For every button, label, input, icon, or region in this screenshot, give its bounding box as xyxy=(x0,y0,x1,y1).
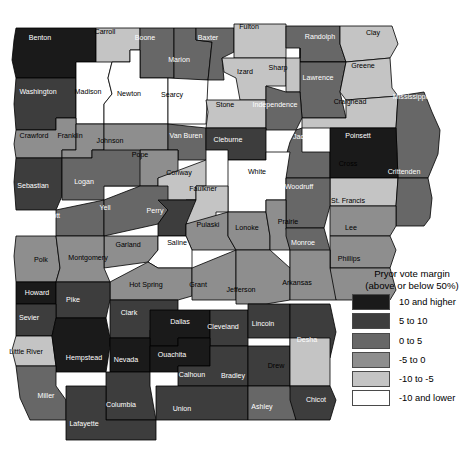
county-region xyxy=(236,250,290,304)
legend-item: -10 and lower xyxy=(352,390,472,406)
county-region xyxy=(266,200,290,250)
legend: Pryor vote margin (above or below 50%) 1… xyxy=(352,268,472,406)
county-region xyxy=(56,200,104,236)
legend-swatch xyxy=(352,294,390,310)
county-region xyxy=(266,86,302,130)
county-region xyxy=(16,304,56,336)
legend-rows: 10 and higher5 to 100 to 5-5 to 0-10 to … xyxy=(352,294,472,406)
legend-label: -5 to 0 xyxy=(399,355,425,365)
county-region xyxy=(300,62,346,118)
legend-label: -10 to -5 xyxy=(399,374,434,384)
legend-swatch xyxy=(352,313,390,329)
county-region xyxy=(228,212,270,250)
legend-label: 0 to 5 xyxy=(399,336,422,346)
legend-item: 0 to 5 xyxy=(352,333,472,349)
county-region xyxy=(248,386,296,420)
legend-item: -5 to 0 xyxy=(352,352,472,368)
county-region xyxy=(290,386,336,420)
county-region xyxy=(12,336,56,366)
legend-title-line1: Pryor vote margin xyxy=(352,268,472,280)
county-region xyxy=(396,92,440,178)
county-region xyxy=(14,236,60,282)
county-region xyxy=(156,386,248,420)
county-region xyxy=(56,236,110,282)
county-region xyxy=(16,366,66,420)
county-region xyxy=(340,58,398,100)
county-region xyxy=(330,128,398,178)
county-region xyxy=(206,100,266,128)
map-figure: BentonCarrollBooneMarionBaxterFultonRand… xyxy=(0,0,475,462)
county-region xyxy=(106,372,156,420)
legend-label: -10 and lower xyxy=(399,393,455,403)
county-region xyxy=(330,178,398,206)
legend-item: 10 and higher xyxy=(352,294,472,310)
county-region xyxy=(330,236,396,268)
legend-title: Pryor vote margin (above or below 50%) xyxy=(352,268,472,291)
county-region xyxy=(110,338,150,372)
legend-title-line2: (above or below 50%) xyxy=(352,280,472,292)
county-region xyxy=(16,282,56,304)
county-region xyxy=(340,26,398,62)
county-region xyxy=(290,250,336,300)
county-region xyxy=(286,26,346,62)
legend-swatch xyxy=(352,333,390,349)
legend-swatch xyxy=(352,390,390,406)
county-region xyxy=(286,128,330,178)
county-region xyxy=(52,318,110,372)
county-region xyxy=(210,310,248,346)
legend-item: 5 to 10 xyxy=(352,313,472,329)
county-region xyxy=(168,78,208,124)
county-region xyxy=(290,338,330,386)
county-region xyxy=(110,262,192,300)
legend-item: -10 to -5 xyxy=(352,371,472,387)
county-region xyxy=(192,250,236,300)
legend-label: 5 to 10 xyxy=(399,316,427,326)
county-region xyxy=(396,178,432,226)
county-region xyxy=(206,128,266,160)
county-region xyxy=(234,24,286,58)
county-region xyxy=(56,282,110,318)
county-region xyxy=(14,158,62,210)
county-region xyxy=(248,304,290,338)
county-region xyxy=(248,346,290,386)
legend-swatch xyxy=(352,371,390,387)
county-region xyxy=(140,28,174,78)
county-region xyxy=(330,206,396,236)
legend-label: 10 and higher xyxy=(399,297,456,307)
legend-swatch xyxy=(352,352,390,368)
county-region xyxy=(286,178,330,228)
